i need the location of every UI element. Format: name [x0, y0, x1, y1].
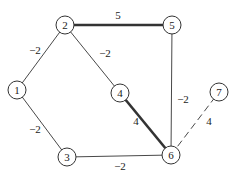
- node-label: 7: [216, 86, 222, 98]
- edge-1-2: [17, 25, 65, 90]
- nodes-group: 1234567: [8, 16, 228, 166]
- edge-2-4: [65, 25, 120, 93]
- node-1: 1: [8, 81, 26, 99]
- edge-weight-1-3: −2: [29, 123, 41, 135]
- edge-weight-5-6: −2: [177, 93, 189, 105]
- node-5: 5: [163, 16, 181, 34]
- node-2: 2: [56, 16, 74, 34]
- edge-weight-2-4: −2: [99, 47, 111, 59]
- edge-weight-3-6: −2: [114, 160, 126, 172]
- graph-diagram: −2−25−2−24−24 1234567: [0, 0, 244, 177]
- edge-5-6: [171, 25, 172, 155]
- node-label: 5: [169, 19, 175, 31]
- node-label: 3: [64, 151, 70, 163]
- edge-weight-2-5: 5: [115, 9, 121, 21]
- node-label: 6: [168, 149, 174, 161]
- node-3: 3: [58, 148, 76, 166]
- node-4: 4: [111, 84, 129, 102]
- edge-weight-6-7: 4: [206, 115, 212, 127]
- edge-weight-4-6: 4: [133, 115, 139, 127]
- node-label: 4: [117, 87, 123, 99]
- edge-1-3: [17, 90, 67, 157]
- edge-weight-1-2: −2: [29, 44, 41, 56]
- node-7: 7: [210, 83, 228, 101]
- node-6: 6: [162, 146, 180, 164]
- node-label: 2: [62, 19, 68, 31]
- node-label: 1: [14, 84, 20, 96]
- edge-3-6: [67, 155, 171, 157]
- edge-4-6: [120, 93, 171, 155]
